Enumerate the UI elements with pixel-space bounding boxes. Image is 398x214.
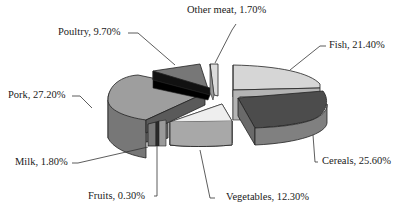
label-vegetables: Vegetables, 12.30% (226, 191, 309, 202)
label-other-meat: Other meat, 1.70% (187, 4, 266, 15)
label-pork: Pork, 27.20% (8, 89, 65, 100)
label-poultry: Poultry, 9.70% (58, 26, 121, 37)
label-fruits: Fruits, 0.30% (88, 190, 145, 201)
slice-milk (148, 122, 156, 146)
label-milk: Milk, 1.80% (15, 156, 68, 167)
slice-cereals (238, 91, 327, 145)
label-fish: Fish, 21.40% (329, 39, 385, 50)
slice-other-meat (210, 64, 218, 100)
pie-chart: Poultry, 9.70% Other meat, 1.70% Fish, 2… (0, 0, 398, 214)
label-cereals: Cereals, 25.60% (322, 155, 391, 166)
slice-fruits (156, 120, 166, 146)
